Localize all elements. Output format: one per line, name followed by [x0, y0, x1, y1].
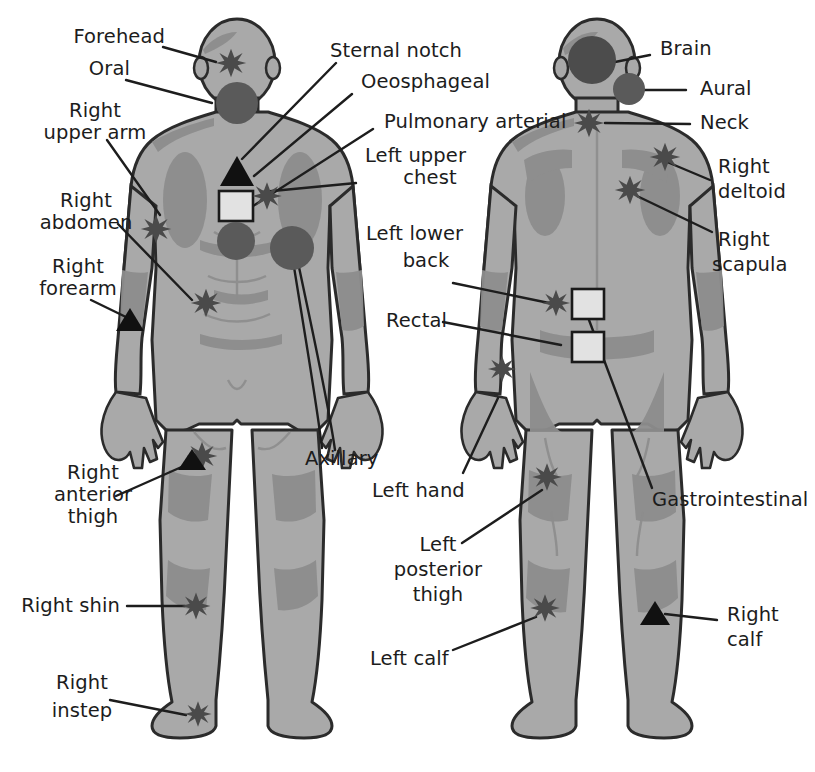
leader-neck	[605, 123, 690, 124]
label-oral: Oral	[20, 58, 130, 80]
label-right-forearm-line2: forearm	[8, 278, 148, 300]
label-oeosphageal: Oeosphageal	[361, 71, 561, 93]
square-marker-oeosphageal	[219, 191, 253, 221]
square-marker-rectal	[572, 332, 604, 362]
label-aural: Aural	[700, 78, 815, 100]
label-right-abdomen-line2: abdomen	[12, 212, 160, 234]
label-right-deltoid-line1: Right	[718, 156, 815, 178]
label-right-anterior-thigh-line3: thigh	[28, 506, 158, 528]
label-brain: Brain	[660, 38, 800, 60]
label-neck: Neck	[700, 112, 815, 134]
label-left-upper-chest-line1: Left upper	[365, 145, 535, 167]
label-right-scapula-line1: Right	[718, 229, 815, 251]
circle-marker-brain	[568, 36, 616, 84]
diagram-canvas: Forehead Oral Right upper arm Right abdo…	[0, 0, 815, 772]
label-right-anterior-thigh-line2: anterior	[28, 484, 158, 506]
label-right-forearm-line1: Right	[8, 256, 148, 278]
square-marker-gastrointestinal	[572, 289, 604, 319]
circle-marker-aural	[613, 73, 645, 105]
label-right-scapula-line2: scapula	[712, 254, 815, 276]
label-left-posterior-thigh-line1: Left	[368, 534, 508, 556]
label-left-posterior-thigh-line3: thigh	[368, 584, 508, 606]
circle-marker-pulmonary-arterial	[217, 222, 255, 260]
label-right-calf-line2: calf	[727, 629, 815, 651]
label-right-upper-arm-line1: Right	[20, 100, 170, 122]
label-rectal: Rectal	[386, 310, 516, 332]
label-right-calf-line1: Right	[727, 604, 815, 626]
label-left-lower-back-line1: Left lower	[366, 223, 536, 245]
label-sternal-notch: Sternal notch	[330, 40, 530, 62]
label-left-lower-back-line2: back	[366, 250, 486, 272]
label-right-anterior-thigh-line1: Right	[28, 462, 158, 484]
label-left-posterior-thigh-line2: posterior	[368, 559, 508, 581]
circle-marker-oral	[216, 82, 258, 124]
label-axillary: Axillary	[305, 448, 445, 470]
label-right-shin: Right shin	[8, 595, 120, 617]
label-left-upper-chest-line2: chest	[365, 167, 495, 189]
label-left-calf: Left calf	[370, 648, 510, 670]
label-pulmonary-arterial: Pulmonary arterial	[384, 111, 614, 133]
circle-marker-axillary	[270, 226, 314, 270]
label-right-abdomen-line1: Right	[12, 190, 160, 212]
label-right-instep-line2: instep	[22, 700, 142, 722]
label-left-hand: Left hand	[372, 480, 522, 502]
label-right-upper-arm-line2: upper arm	[20, 122, 170, 144]
label-gastrointestinal: Gastrointestinal	[652, 489, 815, 511]
label-right-deltoid-line2: deltoid	[718, 181, 815, 203]
label-right-instep-line1: Right	[22, 672, 142, 694]
label-forehead: Forehead	[20, 26, 165, 48]
